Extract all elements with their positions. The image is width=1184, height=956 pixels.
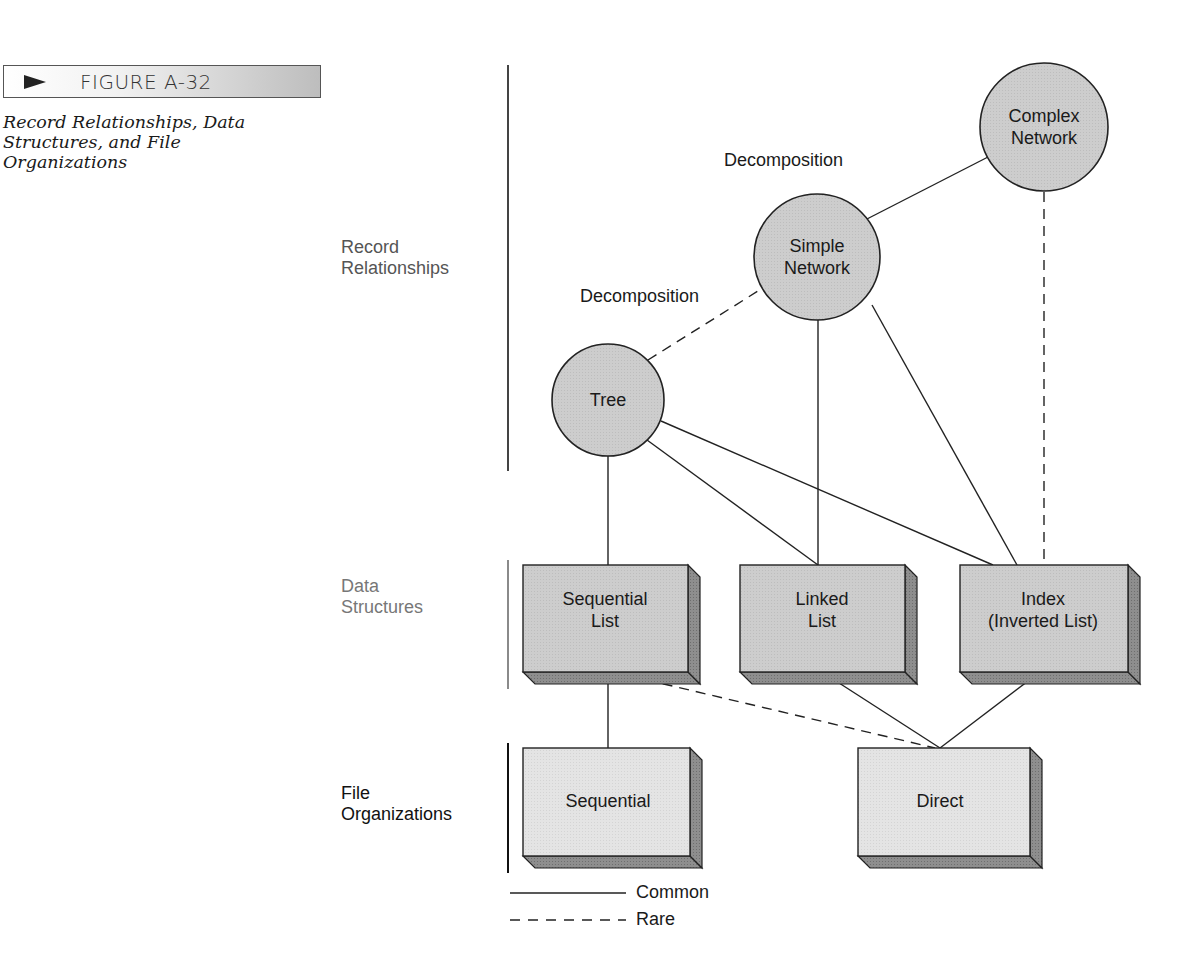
edge-label-decomposition-lower: Decomposition xyxy=(580,286,699,307)
node-label-line: Tree xyxy=(590,389,626,411)
node-label-line: Network xyxy=(1008,127,1079,149)
node-label-tree: Tree xyxy=(590,389,626,411)
node-label-line: (Inverted List) xyxy=(988,610,1098,632)
node-label-line: Index xyxy=(988,588,1098,610)
node-label-line: List xyxy=(562,610,647,632)
edge-label-decomposition-upper: Decomposition xyxy=(724,150,843,171)
node-label-complex-network: Complex Network xyxy=(1008,105,1079,149)
diagram-canvas xyxy=(0,0,1184,956)
node-label-line: List xyxy=(795,610,848,632)
legend-rare-label: Rare xyxy=(636,909,675,930)
node-label-index: Index (Inverted List) xyxy=(988,588,1098,632)
edge-simple-index xyxy=(872,305,1017,565)
legend-common-label: Common xyxy=(636,882,709,903)
node-label-line: Network xyxy=(784,257,850,279)
node-label-sequential-list: Sequential List xyxy=(562,588,647,632)
node-label-line: Direct xyxy=(916,790,963,812)
node-label-line: Sequential xyxy=(565,790,650,812)
edge-tree-linked xyxy=(647,440,818,565)
node-label-line: Simple xyxy=(784,235,850,257)
edge-tree-index xyxy=(661,421,993,565)
node-label-line: Linked xyxy=(795,588,848,610)
node-label-linked-list: Linked List xyxy=(795,588,848,632)
node-label-line: Sequential xyxy=(562,588,647,610)
node-label-sequential: Sequential xyxy=(565,790,650,812)
edge-simple-complex xyxy=(865,157,988,220)
node-label-direct: Direct xyxy=(916,790,963,812)
node-label-simple-network: Simple Network xyxy=(784,235,850,279)
node-label-line: Complex xyxy=(1008,105,1079,127)
